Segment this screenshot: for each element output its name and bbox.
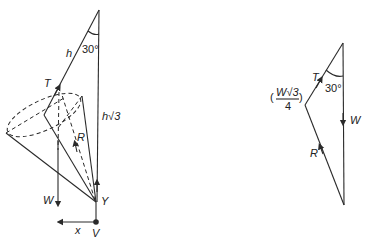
- cone-figure: h 30° T h√3 R W Y x V: [1, 10, 121, 239]
- label-h-root3: h√3: [102, 110, 121, 122]
- label-angle: 30°: [82, 43, 99, 55]
- paren-left: (: [270, 91, 274, 103]
- label-angle: 30°: [325, 82, 342, 94]
- tension-side: [305, 43, 343, 105]
- reaction-line: [62, 95, 95, 200]
- angle-arc: [88, 31, 99, 35]
- weight-side: [343, 43, 344, 205]
- force-triangle: T 30° W R ( W√3 4 ): [270, 43, 362, 205]
- dashed-line: [6, 98, 64, 133]
- label-V: V: [92, 227, 101, 239]
- cone-generator-left: [6, 133, 96, 202]
- label-W: W: [43, 194, 55, 206]
- vertical-line: [97, 10, 99, 202]
- cone-generator-right: [82, 96, 96, 202]
- cone-base-ellipse: [1, 85, 86, 146]
- label-W: W: [350, 114, 362, 126]
- diagram-canvas: h 30° T h√3 R W Y x V T 30° W R ( W√3 4 …: [0, 0, 365, 252]
- dashed-line: [58, 96, 82, 128]
- label-x: x: [74, 224, 81, 236]
- label-tension-numerator: W√3: [276, 86, 299, 98]
- angle-arc: [326, 70, 343, 76]
- label-R: R: [77, 131, 85, 143]
- label-tension-denominator: 4: [285, 100, 291, 112]
- label-Y: Y: [101, 195, 109, 207]
- label-R: R: [310, 147, 318, 159]
- reaction-arrow: [75, 143, 77, 152]
- label-T: T: [312, 71, 320, 83]
- label-h: h: [66, 47, 72, 59]
- label-T: T: [44, 77, 52, 89]
- paren-right: ): [299, 91, 303, 103]
